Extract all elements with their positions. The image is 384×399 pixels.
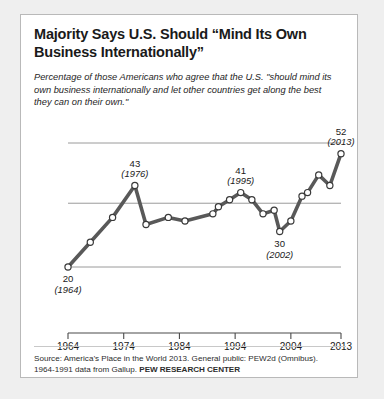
brand-name: PEW RESEARCH CENTER — [139, 365, 240, 374]
infographic-card: Majority Says U.S. Should “Mind Its Own … — [20, 14, 358, 378]
annotation-value: 43 — [130, 158, 141, 169]
annotation-year: (1976) — [121, 168, 148, 179]
annotation-year: (2002) — [266, 249, 293, 260]
data-point-marker — [132, 182, 138, 188]
data-point-marker — [249, 197, 255, 203]
data-point-marker — [210, 211, 216, 217]
data-point-marker — [288, 218, 294, 224]
annotation-year: (2013) — [327, 136, 354, 147]
data-annotations: 20(1964)43(1976)41(1995)30(2002)52(2013) — [54, 126, 354, 295]
annotation-value: 20 — [63, 273, 74, 284]
data-point-marker — [260, 211, 266, 217]
annotation-value: 30 — [274, 238, 285, 249]
source-line-1: Source: America’s Place in the World 201… — [34, 353, 346, 364]
data-line — [68, 154, 341, 267]
data-point-marker — [277, 228, 283, 234]
data-point-marker — [271, 207, 277, 213]
data-point-marker — [65, 264, 71, 270]
line-chart: 20(1964)43(1976)41(1995)30(2002)52(2013)… — [21, 15, 358, 378]
data-point-marker — [327, 182, 333, 188]
data-point-marker — [316, 172, 322, 178]
x-axis — [68, 333, 341, 339]
annotation-year: (1964) — [54, 284, 81, 295]
annotation-value: 52 — [336, 126, 347, 137]
annotation-year: (1995) — [227, 175, 254, 186]
data-point-marker — [226, 197, 232, 203]
data-point-marker — [143, 221, 149, 227]
data-point-marker — [165, 214, 171, 220]
data-point-marker — [304, 190, 310, 196]
data-point-marker — [109, 214, 115, 220]
data-point-marker — [238, 190, 244, 196]
data-point-marker — [87, 239, 93, 245]
footer-divider — [34, 346, 346, 347]
source-prefix: 1964-1991 data from Gallup. — [34, 365, 139, 374]
data-point-marker — [215, 204, 221, 210]
data-point-marker — [338, 151, 344, 157]
data-markers — [65, 151, 344, 271]
data-line-path — [68, 154, 341, 267]
annotation-value: 41 — [235, 165, 246, 176]
data-point-marker — [182, 218, 188, 224]
source-line-2: 1964-1991 data from Gallup. PEW RESEARCH… — [34, 364, 346, 375]
gridlines — [68, 143, 341, 267]
